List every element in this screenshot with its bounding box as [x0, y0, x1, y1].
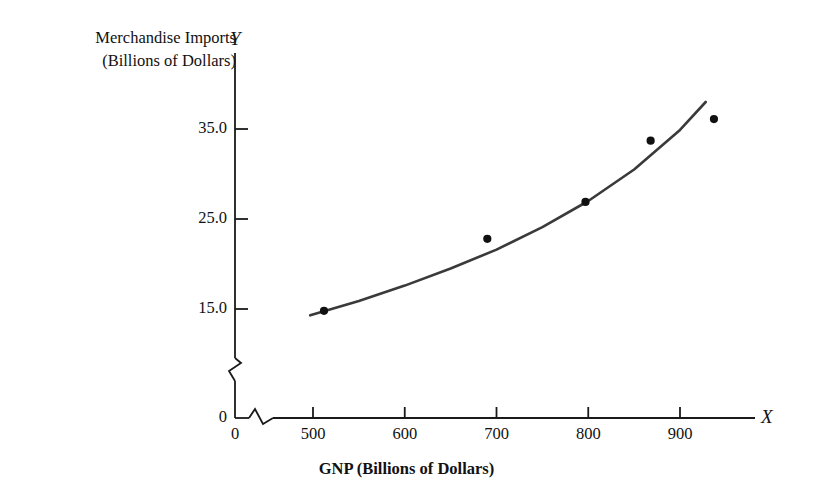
y-axis-break-icon [229, 358, 241, 381]
chart-figure: Merchandise Imports (Billions of Dollars… [0, 0, 813, 495]
data-point [710, 115, 718, 123]
axes-group [229, 53, 755, 424]
plot-area [0, 0, 813, 495]
data-point [581, 198, 589, 206]
data-point [647, 137, 655, 145]
data-point [320, 307, 328, 315]
fitted-curve-group [310, 102, 705, 315]
x-axis-break-icon [249, 409, 273, 424]
data-points-group [320, 115, 718, 315]
data-point [483, 235, 491, 243]
fitted-curve [310, 102, 705, 315]
